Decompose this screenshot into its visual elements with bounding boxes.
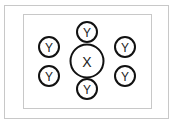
node-label: Y — [83, 83, 91, 97]
node-label: Y — [83, 26, 91, 40]
diagram-canvas: X Y Y Y Y Y Y — [0, 0, 172, 125]
node-label: Y — [45, 70, 53, 84]
node-y-top: Y — [77, 22, 97, 42]
node-y-right-upper: Y — [115, 37, 135, 57]
node-y-left-lower: Y — [39, 66, 59, 86]
node-y-right-lower: Y — [115, 66, 135, 86]
center-node-x: X — [71, 45, 104, 78]
node-label: Y — [121, 41, 129, 55]
node-y-left-upper: Y — [39, 37, 59, 57]
node-label: Y — [121, 70, 129, 84]
node-y-bottom: Y — [77, 79, 97, 99]
center-node-label: X — [82, 54, 92, 70]
node-label: Y — [45, 41, 53, 55]
